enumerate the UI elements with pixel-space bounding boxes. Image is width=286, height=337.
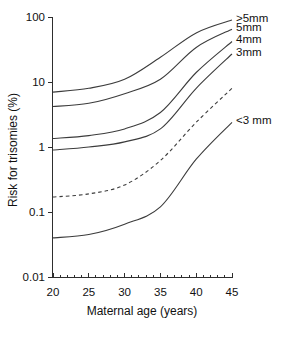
y-tick-label: 0.01 bbox=[23, 271, 45, 283]
curve-3mm bbox=[53, 122, 232, 238]
curve-label-3mm: 3mm bbox=[236, 46, 262, 58]
curves-group bbox=[53, 20, 232, 238]
curve-3mm bbox=[53, 54, 232, 150]
x-tick-label: 20 bbox=[47, 286, 60, 298]
y-tick-label: 0.1 bbox=[29, 206, 45, 218]
curve-label-5mm: 5mm bbox=[236, 21, 262, 33]
x-axis-ticks: 202530354045 bbox=[47, 273, 239, 299]
curve-label-4mm: 4mm bbox=[236, 33, 262, 45]
curve-labels-group: >5mm5mm4mm3mm<3 mm bbox=[236, 12, 271, 126]
x-tick-label: 45 bbox=[226, 286, 239, 298]
y-axis-ticks: 1001010.10.01 bbox=[23, 11, 53, 283]
x-tick-label: 25 bbox=[82, 286, 95, 298]
x-tick-label: 40 bbox=[190, 286, 203, 298]
curve-5mm bbox=[53, 20, 232, 92]
x-tick-label: 30 bbox=[118, 286, 131, 298]
y-tick-label: 100 bbox=[26, 11, 45, 23]
x-tick-label: 35 bbox=[154, 286, 167, 298]
chart-canvas: 1001010.10.01 202530354045 >5mm5mm4mm3mm… bbox=[0, 0, 286, 337]
y-tick-label: 10 bbox=[32, 76, 45, 88]
y-axis-title: Risk for trisomies (%) bbox=[6, 93, 20, 207]
curve-5mm bbox=[53, 29, 232, 106]
risk-trisomies-chart: 1001010.10.01 202530354045 >5mm5mm4mm3mm… bbox=[0, 0, 286, 337]
x-axis-title: Maternal age (years) bbox=[87, 304, 198, 318]
y-tick-label: 1 bbox=[39, 141, 45, 153]
curve-label-3mm: <3 mm bbox=[236, 114, 271, 126]
